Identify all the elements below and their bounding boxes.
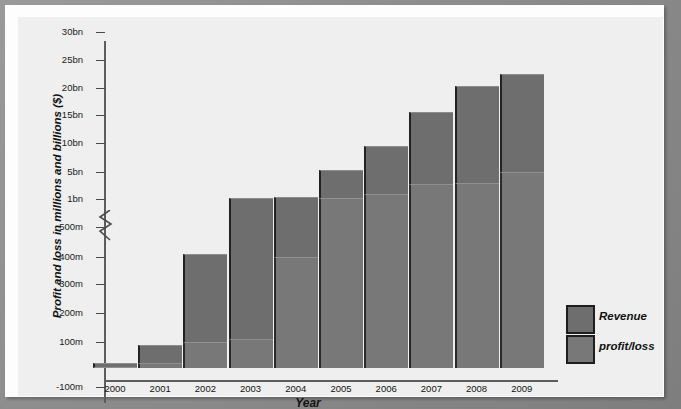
- bar-segment-revenue: [138, 345, 182, 363]
- x-tick-label: 2008: [454, 383, 500, 394]
- bar-group: [500, 74, 544, 368]
- x-tick-label: 2006: [363, 383, 409, 394]
- bar-group: [274, 197, 318, 368]
- bar-group: [455, 86, 499, 368]
- bar-group: [229, 198, 273, 368]
- x-tick-label: 2002: [182, 383, 228, 394]
- bar-group: [409, 112, 453, 368]
- bar-segment-profit-loss: [274, 257, 318, 368]
- chart-matte: Profit and loss in millions and billions…: [5, 5, 664, 397]
- bar-segment-revenue: [500, 74, 544, 172]
- bar-segment-profit-loss: [500, 172, 544, 368]
- bar-group: [93, 363, 137, 368]
- x-tick-label: 2005: [318, 383, 364, 394]
- bar-segment-profit-loss: [455, 183, 499, 368]
- bar-group: [138, 345, 182, 368]
- bar-segment-profit-loss: [183, 342, 227, 368]
- bar-segment-profit-loss: [364, 194, 408, 368]
- bar-segment-revenue: [319, 170, 363, 197]
- x-tick-label: 2009: [499, 383, 545, 394]
- bar-segment-profit-loss: [138, 363, 182, 368]
- bar-segment-profit-loss: [319, 198, 363, 368]
- bar-segment-profit-loss: [409, 184, 453, 368]
- bar-segment-revenue: [455, 86, 499, 183]
- bar-group: [183, 254, 227, 368]
- legend-swatch: [566, 305, 595, 334]
- bar-segment-revenue: [229, 198, 273, 339]
- bar-segment-revenue: [409, 112, 453, 184]
- x-tick-label: 2000: [92, 383, 138, 394]
- x-tick-label: 2007: [408, 383, 454, 394]
- bar-segment-profit-loss: [93, 367, 137, 368]
- legend-label: profit/loss: [599, 340, 655, 352]
- x-tick-label: 2003: [228, 383, 274, 394]
- legend-swatch: [566, 335, 595, 364]
- bar-group: [364, 146, 408, 368]
- bar-group: [319, 170, 363, 368]
- chart-legend: Revenueprofit/loss: [566, 303, 681, 363]
- x-tick-label: 2004: [273, 383, 319, 394]
- bar-segment-revenue: [364, 146, 408, 194]
- x-axis-label: Year: [138, 396, 478, 409]
- chart-canvas: Profit and loss in millions and billions…: [18, 17, 663, 396]
- bar-segment-profit-loss: [229, 339, 273, 368]
- legend-item: profit/loss: [566, 333, 681, 363]
- x-tick-label: 2001: [137, 383, 183, 394]
- legend-label: Revenue: [599, 310, 647, 322]
- bar-segment-revenue: [274, 197, 318, 257]
- legend-item: Revenue: [566, 303, 681, 333]
- image-frame: Profit and loss in millions and billions…: [0, 0, 681, 409]
- bar-segment-revenue: [183, 254, 227, 342]
